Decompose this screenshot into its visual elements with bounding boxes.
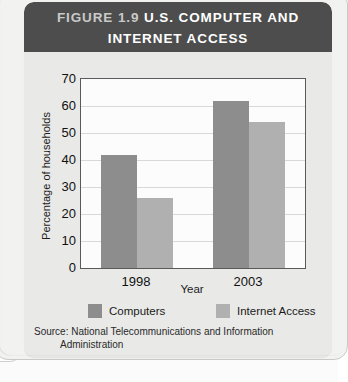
bar-internet-2003 <box>249 122 285 268</box>
y-tick-label: 70 <box>36 72 76 85</box>
chart-area: Percentage of households 706050403020100… <box>24 52 332 357</box>
legend-label-internet: Internet Access <box>237 305 316 317</box>
x-axis-label: Year <box>152 283 232 295</box>
bar-computers-2003 <box>213 101 249 268</box>
legend-swatch-internet <box>216 304 230 318</box>
figure-title-line1: U.S. COMPUTER AND <box>144 10 299 25</box>
y-tick-label: 0 <box>36 261 76 274</box>
y-tick-label: 20 <box>36 207 76 220</box>
plot-frame <box>80 78 306 269</box>
y-tick-label: 30 <box>36 180 76 193</box>
chart-legend: ComputersInternet Access <box>80 304 324 320</box>
source-note: Source: National Telecommunications and … <box>34 326 326 351</box>
legend-item-computers: Computers <box>88 304 165 318</box>
figure-title-line2: INTERNET ACCESS <box>108 31 249 46</box>
gridline <box>81 106 305 107</box>
figure-header: FIGURE 1.9 U.S. COMPUTER AND INTERNET AC… <box>24 2 332 52</box>
figure-number: FIGURE 1.9 <box>57 10 140 25</box>
y-axis-tick-labels: 706050403020100 <box>32 78 76 267</box>
legend-swatch-computers <box>88 304 102 318</box>
bar-computers-1998 <box>101 155 137 268</box>
y-tick-label: 40 <box>36 153 76 166</box>
source-line-1: Source: National Telecommunications and … <box>34 326 326 339</box>
figure-panel: FIGURE 1.9 U.S. COMPUTER AND INTERNET AC… <box>24 2 332 357</box>
legend-label-computers: Computers <box>109 305 165 317</box>
y-tick-label: 50 <box>36 126 76 139</box>
legend-item-internet: Internet Access <box>216 304 316 318</box>
bar-internet-1998 <box>137 198 173 268</box>
y-tick-label: 10 <box>36 234 76 247</box>
y-tick-label: 60 <box>36 99 76 112</box>
source-line-2: Administration <box>34 339 326 352</box>
